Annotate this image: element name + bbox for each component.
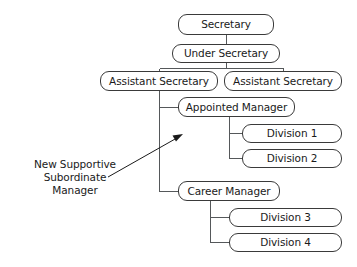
node-division-3-label: Division 3: [260, 212, 311, 223]
annotation-new-supportive-subordinate-manager: New Supportive Subordinate Manager: [8, 158, 142, 197]
node-under-secretary[interactable]: Under Secretary: [172, 44, 280, 63]
node-assistant-secretary-left-label: Assistant Secretary: [109, 76, 209, 87]
node-career-manager[interactable]: Career Manager: [178, 181, 280, 201]
node-assistant-secretary-right-label: Assistant Secretary: [233, 76, 333, 87]
node-career-manager-label: Career Manager: [187, 186, 270, 197]
node-division-3[interactable]: Division 3: [229, 208, 342, 227]
node-secretary-label: Secretary: [201, 19, 251, 30]
node-division-4[interactable]: Division 4: [229, 233, 342, 252]
node-assistant-secretary-left[interactable]: Assistant Secretary: [100, 71, 218, 91]
annotation-line-2: Subordinate: [8, 171, 142, 184]
node-division-2[interactable]: Division 2: [242, 149, 342, 168]
node-under-secretary-label: Under Secretary: [184, 48, 268, 59]
node-secretary[interactable]: Secretary: [178, 14, 274, 35]
org-chart-diagram: Secretary Under Secretary Assistant Secr…: [0, 0, 357, 267]
annotation-arrowhead: [173, 134, 184, 142]
node-assistant-secretary-right[interactable]: Assistant Secretary: [224, 71, 342, 91]
annotation-line-3: Manager: [8, 184, 142, 197]
node-appointed-manager[interactable]: Appointed Manager: [178, 97, 295, 117]
node-division-2-label: Division 2: [267, 153, 318, 164]
node-division-4-label: Division 4: [260, 237, 311, 248]
annotation-line-1: New Supportive: [8, 158, 142, 171]
node-appointed-manager-label: Appointed Manager: [186, 102, 287, 113]
node-division-1[interactable]: Division 1: [242, 124, 342, 143]
node-division-1-label: Division 1: [267, 128, 318, 139]
